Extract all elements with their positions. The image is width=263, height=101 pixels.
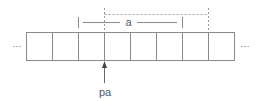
ellipsis-left: ···	[13, 41, 22, 51]
label-pa: pa	[99, 86, 112, 98]
array-cells	[27, 33, 235, 61]
dashed-region-bracket	[105, 8, 209, 32]
pa-pointer-arrow	[102, 61, 107, 83]
label-a: a	[125, 16, 132, 28]
arrow-up-icon	[102, 61, 107, 68]
memory-diagram: a ··· ··· pa	[0, 0, 263, 101]
ellipsis-right: ···	[241, 41, 250, 51]
